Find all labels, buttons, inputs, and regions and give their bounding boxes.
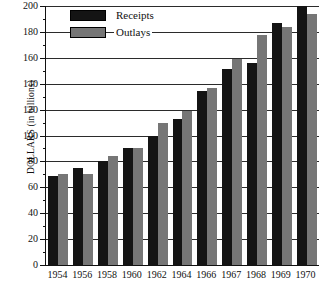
bar-group-1970 [294, 6, 319, 265]
bar-chart-figure: DOLLARS (in billions) 020406080100120140… [0, 0, 336, 305]
x-axis-label-1954: 1954 [45, 268, 70, 282]
bar-receipts-1958 [98, 161, 108, 265]
bar-group-1956 [71, 6, 96, 265]
x-axis-label-1964: 1964 [169, 268, 194, 282]
x-axis-label-1970: 1970 [293, 268, 318, 282]
bar-outlays-1954 [58, 174, 68, 265]
y-tick-label-60: 60 [28, 182, 38, 192]
bar-group-1966 [195, 6, 220, 265]
legend-label-outlays: Outlays [114, 27, 152, 38]
x-axis-label-1966: 1966 [194, 268, 219, 282]
bar-receipts-1956 [73, 168, 83, 265]
y-tick-label-20: 20 [28, 234, 38, 244]
bar-group-1954 [46, 6, 71, 265]
y-tick-label-80: 80 [28, 156, 38, 166]
bar-receipts-1967 [222, 69, 232, 265]
bar-outlays-1964 [182, 111, 192, 265]
bar-outlays-1968 [257, 35, 267, 266]
y-tick-label-120: 120 [23, 105, 38, 115]
bar-receipts-1954 [48, 176, 58, 265]
x-axis-labels: 1954195619581960196219641966196719681969… [45, 268, 318, 284]
y-tick-label-200: 200 [23, 1, 38, 11]
bar-receipts-1966 [197, 91, 207, 265]
x-axis-label-1969: 1969 [268, 268, 293, 282]
y-tick-label-0: 0 [33, 260, 38, 270]
x-axis-label-1958: 1958 [95, 268, 120, 282]
y-tick-label-140: 140 [23, 79, 38, 89]
y-tick-label-180: 180 [23, 27, 38, 37]
bars-layer [46, 6, 319, 265]
bar-group-1969 [269, 6, 294, 265]
x-axis-label-1968: 1968 [244, 268, 269, 282]
bar-outlays-1969 [282, 27, 292, 265]
legend-item-receipts: Receipts [70, 8, 190, 22]
legend-item-outlays: Outlays [70, 25, 190, 39]
bar-receipts-1968 [247, 63, 257, 265]
x-axis-label-1960: 1960 [119, 268, 144, 282]
bar-outlays-1962 [158, 123, 168, 265]
bar-outlays-1960 [133, 148, 143, 265]
chart-legend: Receipts Outlays [70, 8, 190, 42]
legend-swatch-receipts [70, 10, 106, 21]
legend-swatch-outlays [70, 27, 106, 38]
bar-group-1960 [120, 6, 145, 265]
y-tick-label-100: 100 [23, 131, 38, 141]
bar-receipts-1960 [123, 148, 133, 265]
bar-group-1964 [170, 6, 195, 265]
bar-group-1968 [245, 6, 270, 265]
bar-receipts-1970 [297, 6, 307, 265]
bar-outlays-1956 [83, 174, 93, 265]
y-tick-0 [40, 265, 46, 266]
bar-group-1958 [96, 6, 121, 265]
x-axis-label-1962: 1962 [144, 268, 169, 282]
bar-group-1967 [220, 6, 245, 265]
legend-label-receipts: Receipts [114, 10, 156, 21]
x-axis-label-1967: 1967 [219, 268, 244, 282]
bar-receipts-1964 [173, 119, 183, 265]
plot-area: 020406080100120140160180200 [45, 6, 319, 266]
x-axis-label-1956: 1956 [70, 268, 95, 282]
bar-outlays-1966 [207, 88, 217, 265]
y-tick-label-40: 40 [28, 208, 38, 218]
bar-outlays-1967 [232, 59, 242, 265]
y-tick-label-160: 160 [23, 53, 38, 63]
bar-group-1962 [145, 6, 170, 265]
bar-receipts-1962 [148, 136, 158, 266]
bar-outlays-1958 [108, 156, 118, 265]
bar-receipts-1969 [272, 23, 282, 265]
bar-outlays-1970 [307, 14, 317, 265]
